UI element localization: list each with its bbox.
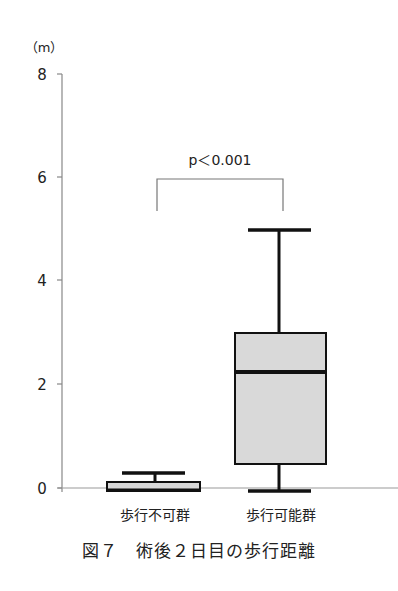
y-axis-unit: （m） [25, 40, 64, 55]
y-tick-label-0: 0 [37, 480, 47, 498]
category-label-2: 歩行可能群 [246, 507, 316, 523]
figure-caption: 図７ 術後２日目の歩行距離 [0, 537, 398, 562]
boxplot-chart: （m） 8 6 4 2 0 p＜0.001 歩行不可群 歩行可能群 [0, 0, 398, 591]
box-group-2 [235, 230, 326, 491]
category-label-1: 歩行不可群 [120, 507, 190, 523]
y-tick-label-8: 8 [37, 66, 47, 84]
y-tick-label-4: 4 [37, 272, 47, 290]
y-tick-label-6: 6 [37, 169, 47, 187]
significance-bracket [157, 179, 283, 211]
y-ticks [57, 74, 62, 488]
p-value-label: p＜0.001 [189, 152, 252, 168]
box-group-1 [107, 473, 200, 491]
y-tick-label-2: 2 [37, 376, 47, 394]
